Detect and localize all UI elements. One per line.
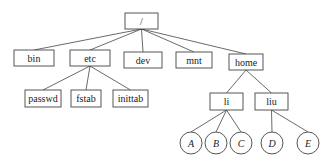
node-li-label: li: [224, 96, 230, 107]
edge-etc-inittab: [90, 66, 131, 90]
directory-tree-diagram: / bin etc dev mnt home passwd fstab init…: [0, 0, 332, 166]
edge-root-home: [142, 29, 247, 54]
node-A: A: [180, 132, 202, 154]
node-liu-label: liu: [266, 96, 277, 107]
edge-home-li: [227, 70, 247, 93]
node-passwd: passwd: [25, 90, 61, 107]
node-mnt: mnt: [176, 52, 212, 68]
node-passwd-label: passwd: [28, 93, 57, 104]
node-dev-label: dev: [136, 55, 150, 66]
edge-etc-fstab: [86, 66, 90, 90]
node-home-label: home: [235, 57, 258, 68]
node-C-label: C: [238, 138, 245, 149]
node-root: /: [125, 13, 158, 29]
node-bin: bin: [14, 50, 54, 66]
node-li: li: [210, 93, 243, 110]
node-E-label: E: [304, 138, 311, 149]
edge-etc-passwd: [43, 66, 90, 90]
edge-li-C: [227, 110, 242, 132]
node-home: home: [229, 54, 263, 70]
edge-root-dev: [142, 29, 144, 52]
node-E: E: [297, 132, 319, 154]
node-D-label: D: [267, 138, 276, 149]
edge-root-bin: [34, 29, 142, 50]
edge-root-mnt: [142, 29, 195, 52]
node-C: C: [230, 132, 252, 154]
node-A-label: A: [187, 138, 195, 149]
node-dev: dev: [124, 52, 162, 68]
node-B-label: B: [213, 138, 219, 149]
node-etc: etc: [70, 50, 110, 66]
node-etc-label: etc: [84, 53, 96, 64]
node-inittab-label: inittab: [118, 93, 144, 104]
tree-edges: [34, 29, 308, 132]
edge-home-liu: [246, 70, 272, 93]
node-mnt-label: mnt: [186, 55, 202, 66]
node-bin-label: bin: [28, 53, 41, 64]
node-fstab-label: fstab: [76, 93, 95, 104]
node-D: D: [261, 132, 283, 154]
edge-liu-D: [272, 110, 273, 132]
node-liu: liu: [255, 93, 288, 110]
edge-liu-E: [272, 110, 309, 132]
node-fstab: fstab: [71, 90, 101, 107]
edge-root-etc: [90, 29, 142, 50]
node-inittab: inittab: [113, 90, 148, 107]
node-root-label: /: [140, 16, 143, 27]
node-B: B: [205, 132, 227, 154]
